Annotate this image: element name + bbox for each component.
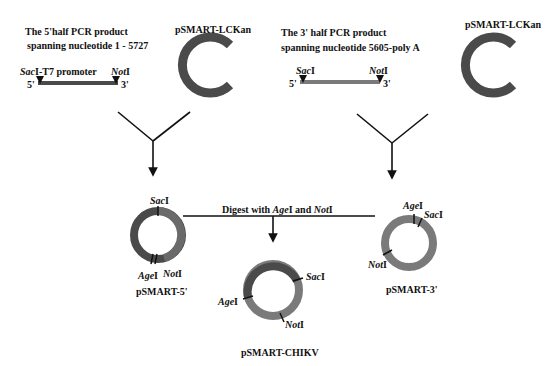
plasmid3-saci-label: SacI	[424, 210, 443, 220]
plasmid-3-prime	[383, 214, 433, 267]
left-merge-connector	[118, 112, 190, 172]
digest-label: Digest with AgeI and NotI	[222, 205, 333, 215]
plasmid3-agei-label: AgeI	[403, 201, 423, 211]
left-noti-label: NotI	[111, 67, 130, 77]
right-fragment-title-line2: spanning nucleotide 5605-poly A	[281, 43, 420, 53]
right-pcr-fragment	[299, 75, 384, 84]
left-vector-label: pSMART-LCKan	[175, 25, 251, 35]
plasmid3-label: pSMART-3'	[386, 285, 438, 295]
right-merge-connector	[357, 114, 428, 175]
right-saci-label: SacI	[296, 66, 315, 76]
left-saci-t7-label: SacI-T7 promoter	[20, 67, 97, 77]
left-5-end-label: 5'	[27, 80, 35, 90]
plasmid5-noti-label: NotI	[163, 269, 182, 279]
left-fragment-title-line2: spanning nucleotide 1 - 5727	[27, 41, 148, 51]
chikv-agei-label: AgeI	[218, 297, 238, 307]
pSMART-LCKan-left-icon	[182, 37, 230, 93]
plasmid-5-prime	[134, 206, 182, 264]
pSMART-LCKan-right-icon	[465, 37, 513, 93]
plasmid3-noti-label: NotI	[368, 260, 387, 270]
right-fragment-title-line1: The 3' half PCR product	[281, 28, 386, 38]
left-fragment-title-line1: The 5'half PCR product	[25, 27, 128, 37]
digest-connector	[183, 216, 375, 238]
diagram-canvas	[0, 0, 550, 366]
plasmid5-label: pSMART-5'	[136, 287, 188, 297]
left-pcr-fragment	[36, 76, 120, 85]
left-3-end-label: 3'	[121, 80, 129, 90]
chikv-label: pSMART-CHIKV	[241, 348, 319, 358]
plasmid5-agei-label: AgeI	[138, 271, 158, 281]
right-noti-label: NotI	[369, 66, 388, 76]
plasmid-chikv	[243, 264, 303, 322]
right-vector-label: pSMART-LCKan	[465, 20, 541, 30]
plasmid5-saci-label: SacI	[150, 196, 169, 206]
chikv-noti-label: NotI	[285, 320, 304, 330]
chikv-saci-label: SacI	[306, 272, 325, 282]
right-5-end-label: 5'	[289, 79, 297, 89]
right-3-end-label: 3'	[383, 79, 391, 89]
